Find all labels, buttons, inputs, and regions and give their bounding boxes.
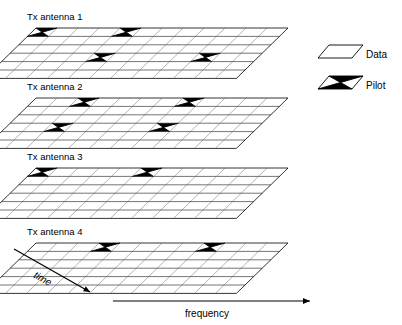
time-axis-label: time [32, 269, 54, 288]
panel-label-3: Tx antenna 3 [27, 151, 82, 162]
diagram-svg: Tx antenna 1Tx antenna 2Tx antenna 3Tx a… [0, 0, 402, 325]
panel-label-4: Tx antenna 4 [27, 226, 82, 237]
antenna-grid-1 [0, 28, 288, 78]
legend-pilot-label: Pilot [366, 80, 386, 91]
legend-layer: DataPilot [318, 45, 388, 91]
time-axis-arrow [14, 249, 90, 292]
frequency-axis-label: frequency [185, 308, 229, 319]
panel-label-2: Tx antenna 2 [27, 81, 82, 92]
antenna-grid-3 [0, 168, 288, 218]
legend-pilot-swatch [318, 76, 363, 89]
figure-canvas: Tx antenna 1Tx antenna 2Tx antenna 3Tx a… [0, 0, 402, 325]
legend-data-swatch [318, 45, 363, 58]
legend-data-label: Data [366, 49, 388, 60]
antenna-grid-4 [0, 243, 288, 293]
panel-label-1: Tx antenna 1 [27, 11, 82, 22]
frequency-axis-arrow [113, 298, 310, 304]
antenna-grid-2 [0, 98, 288, 148]
